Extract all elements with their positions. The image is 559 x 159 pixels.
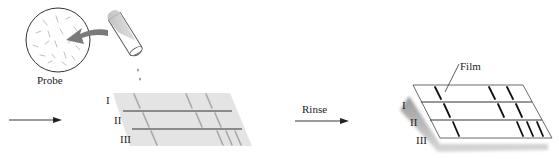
probe-label: Probe xyxy=(37,74,63,86)
rinse-label: Rinse xyxy=(302,103,327,115)
southern-blot-probe-diagram: Probe xyxy=(0,0,559,159)
lane-label-2: II xyxy=(114,114,122,126)
lane-label-3: III xyxy=(120,133,131,145)
arrow-right-icon xyxy=(9,117,62,123)
test-tube-icon xyxy=(105,8,144,59)
film-lane-label-3: III xyxy=(416,134,427,146)
film-lane-label-2: II xyxy=(410,116,418,128)
film-label: Film xyxy=(460,60,481,72)
membrane xyxy=(113,93,252,146)
probe-drops-icon xyxy=(137,68,141,80)
rinse-arrow-icon xyxy=(295,118,349,124)
film-lane-label-1: I xyxy=(402,99,406,111)
lane-label-1: I xyxy=(106,94,110,106)
